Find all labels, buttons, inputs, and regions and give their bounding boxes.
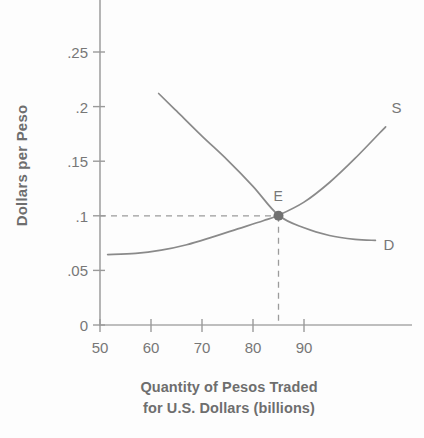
demand-curve-label: D xyxy=(383,236,394,253)
x-tick-label: 70 xyxy=(194,339,211,356)
guide-lines-group xyxy=(100,216,279,325)
y-tick-label: .05 xyxy=(40,262,88,279)
equilibrium-point-marker xyxy=(274,211,284,221)
y-tick-label: .25 xyxy=(40,44,88,61)
y-tick-label: .2 xyxy=(40,98,88,115)
x-tick-label: 80 xyxy=(245,339,262,356)
x-tick-label: 50 xyxy=(92,339,109,356)
x-tick-label: 60 xyxy=(143,339,160,356)
supply-curve xyxy=(108,127,386,255)
demand-curve xyxy=(159,94,376,241)
supply-demand-chart-figure: Dollars per Peso Quantity of Pesos Trade… xyxy=(0,0,424,438)
y-axis-tick-marks xyxy=(93,52,105,325)
y-tick-label: .15 xyxy=(40,153,88,170)
x-axis-title-line-1: Quantity of Pesos Traded xyxy=(44,377,414,398)
x-axis-title: Quantity of Pesos Traded for U.S. Dollar… xyxy=(44,377,414,419)
supply-curve-label: S xyxy=(392,99,402,116)
x-axis-title-line-2: for U.S. Dollars (billions) xyxy=(44,398,414,419)
axes-group xyxy=(100,0,412,326)
equilibrium-point-label: E xyxy=(274,188,283,204)
y-axis-title: Dollars per Peso xyxy=(0,0,44,330)
y-axis-title-text: Dollars per Peso xyxy=(14,104,31,226)
y-tick-label: .1 xyxy=(40,207,88,224)
x-tick-label: 90 xyxy=(296,339,313,356)
y-tick-label: 0 xyxy=(40,317,88,334)
